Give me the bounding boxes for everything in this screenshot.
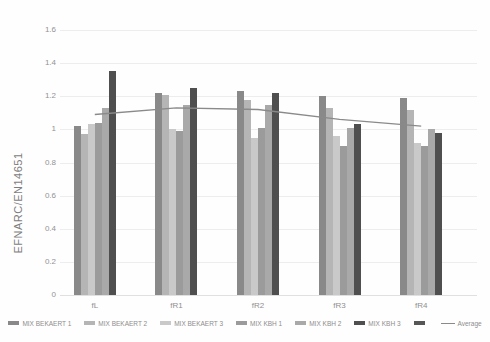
y-tick-label: 1.4 [26,58,56,67]
bar-mix-kbh-1 [258,128,265,295]
legend-label: MIX KBH 1 [250,320,282,327]
x-axis-line [60,295,477,296]
bar-mix-bekaert-3 [88,124,95,295]
legend-item: MIX BEKAERT 1 [8,320,71,327]
legend-swatch [236,321,247,325]
bar-mix-bekaert-3 [169,129,176,295]
bar-mix-bekaert-1 [400,98,407,295]
legend-item: MIX KBH 2 [295,320,341,327]
bar-mix-kbh-1 [340,146,347,295]
bar-mix-kbh-2 [183,105,190,295]
legend-label: MIX KBH 2 [309,320,341,327]
legend-swatch [295,321,306,325]
legend-line-marker [441,323,455,324]
category-label: fR3 [310,301,370,310]
chart-page: 00.20.40.60.811.21.41.6fLfR1fR2fR3fR4 EF… [0,0,490,342]
y-tick-label: 0.2 [26,257,56,266]
bar-mix-kbh-1 [421,146,428,295]
bar-mix-kbh-3 [190,88,197,295]
bar-mix-bekaert-2 [162,95,169,295]
legend-label: MIX KBH 3 [368,320,400,327]
bar-mix-kbh-3 [109,71,116,295]
bar-mix-bekaert-1 [319,96,326,295]
bar-mix-bekaert-2 [326,108,333,295]
bar-mix-bekaert-1 [155,93,162,295]
plot-area: 00.20.40.60.811.21.41.6fLfR1fR2fR3fR4 [0,0,490,342]
legend-swatch [160,321,171,325]
bar-mix-bekaert-2 [244,100,251,295]
bar-mix-kbh-3 [354,124,361,295]
grid-line [60,30,477,31]
bar-mix-bekaert-1 [74,126,81,295]
y-tick-label: 0.6 [26,191,56,200]
legend-label: Average [458,320,482,327]
bar-mix-kbh-2 [102,108,109,295]
category-label: fL [65,301,125,310]
bar-mix-kbh-3 [435,133,442,295]
legend: MIX BEKAERT 1MIX BEKAERT 2MIX BEKAERT 3M… [0,315,490,331]
bar-mix-kbh-3 [272,93,279,295]
legend-item: MIX BEKAERT 2 [84,320,147,327]
y-tick-label: 0 [26,290,56,299]
bar-mix-kbh-2 [265,105,272,295]
y-tick-label: 0.8 [26,158,56,167]
y-axis-title: EFNARC/EN14651 [12,128,28,278]
bar-mix-bekaert-1 [237,91,244,295]
bar-mix-kbh-2 [347,128,354,295]
legend-item [414,321,428,325]
bar-mix-bekaert-2 [407,110,414,296]
y-tick-label: 0.4 [26,224,56,233]
bar-mix-bekaert-3 [333,136,340,295]
bar-mix-bekaert-2 [81,134,88,295]
grid-line [60,63,477,64]
legend-item: MIX BEKAERT 3 [160,320,223,327]
bar-mix-kbh-1 [176,131,183,295]
legend-item: Average [441,320,482,327]
bar-mix-kbh-2 [428,129,435,295]
bar-mix-bekaert-3 [414,143,421,295]
bar-mix-kbh-1 [95,123,102,295]
legend-swatch [8,321,19,325]
legend-label: MIX BEKAERT 2 [98,320,147,327]
legend-swatch [414,321,425,325]
y-tick-label: 1.6 [26,25,56,34]
legend-item: MIX KBH 1 [236,320,282,327]
legend-label: MIX BEKAERT 3 [174,320,223,327]
legend-label: MIX BEKAERT 1 [22,320,71,327]
category-label: fR4 [391,301,451,310]
y-tick-label: 1.2 [26,91,56,100]
bar-mix-bekaert-3 [251,138,258,295]
legend-swatch [84,321,95,325]
grid-line [60,96,477,97]
category-label: fR1 [146,301,206,310]
category-label: fR2 [228,301,288,310]
y-tick-label: 1 [26,124,56,133]
legend-item: MIX KBH 3 [354,320,400,327]
legend-swatch [354,321,365,325]
